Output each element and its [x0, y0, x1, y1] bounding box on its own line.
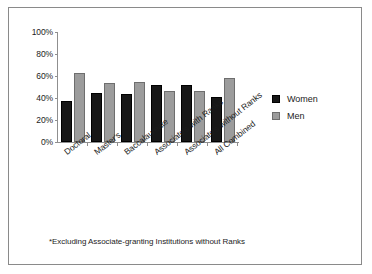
x-axis-tick-mark — [207, 142, 208, 146]
y-axis-tick-mark — [55, 32, 58, 33]
bar-group — [61, 32, 88, 142]
chart-figure: 0%20%40%60%80%100% DoctoralMaster'sBacca… — [8, 7, 362, 265]
y-axis-tick-label: 40% — [36, 93, 53, 103]
bar-group — [91, 32, 118, 142]
x-axis-tick-mark — [237, 142, 238, 146]
legend-swatch-women-icon — [272, 95, 280, 103]
y-axis-tick-mark — [55, 142, 58, 143]
x-axis-tick-mark — [117, 142, 118, 146]
legend-item-women: Women — [272, 90, 318, 107]
legend-swatch-men-icon — [272, 112, 280, 120]
y-axis-tick-label: 80% — [36, 49, 53, 59]
chart-legend: Women Men — [272, 90, 318, 124]
chart-footnote: *Excluding Associate-granting Institutio… — [49, 237, 245, 246]
y-axis-tick-mark — [55, 98, 58, 99]
y-axis-tick-mark — [55, 76, 58, 77]
y-axis-line — [57, 32, 58, 142]
x-axis-tick-mark — [87, 142, 88, 146]
bar-women — [91, 93, 102, 143]
bar-women — [121, 94, 132, 142]
bar-group — [121, 32, 148, 142]
y-axis-tick-label: 60% — [36, 71, 53, 81]
legend-label-women: Women — [287, 94, 318, 104]
y-axis-tick-label: 0% — [41, 137, 53, 147]
y-axis-tick-label: 20% — [36, 115, 53, 125]
x-axis-tick-mark — [147, 142, 148, 146]
bar-women — [61, 101, 72, 142]
y-axis-tick-mark — [55, 54, 58, 55]
x-axis-tick-mark — [177, 142, 178, 146]
y-axis-tick-label: 100% — [32, 27, 53, 37]
legend-item-men: Men — [272, 107, 318, 124]
legend-label-men: Men — [287, 111, 305, 121]
y-axis-tick-mark — [55, 120, 58, 121]
